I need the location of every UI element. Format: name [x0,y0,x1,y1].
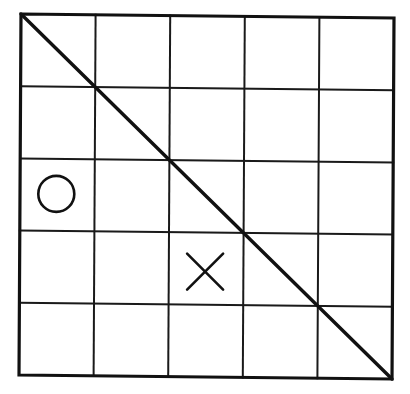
board-cell-r3-c2[interactable] [169,232,244,305]
board-cell-r0-c2[interactable] [170,16,245,89]
board-cell-r0-c1[interactable] [95,15,170,88]
board-cell-r3-c3[interactable] [243,233,318,306]
board-cell-r2-c0[interactable] [20,158,95,231]
board-cell-r1-c2[interactable] [169,88,244,161]
board-cell-r4-c4[interactable] [317,306,392,379]
board-cell-r2-c1[interactable] [94,159,169,232]
board-cell-r1-c4[interactable] [319,89,394,162]
board-cell-r4-c2[interactable] [168,304,243,377]
board-cell-r4-c3[interactable] [243,305,318,378]
board-cell-r1-c0[interactable] [20,86,95,159]
board-cell-r1-c3[interactable] [244,89,319,162]
board-cell-r1-c1[interactable] [95,87,170,160]
board-cell-r3-c4[interactable] [318,234,393,307]
board-cell-r0-c3[interactable] [244,16,319,89]
tic-tac-toe-board [0,0,410,394]
board-cell-r0-c4[interactable] [319,17,394,90]
board-cell-r3-c1[interactable] [94,231,169,304]
board-cell-r4-c0[interactable] [19,303,94,376]
board-cell-r2-c2[interactable] [169,160,244,233]
board-cell-r0-c0[interactable] [21,14,96,87]
board-cell-r2-c4[interactable] [318,162,393,235]
board-cell-r4-c1[interactable] [94,304,169,377]
board-cell-r2-c3[interactable] [244,161,319,234]
board-cell-r3-c0[interactable] [19,231,94,304]
